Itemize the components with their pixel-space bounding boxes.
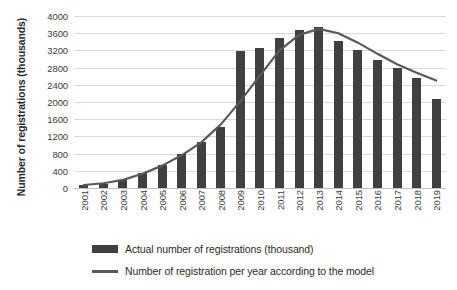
plot-area xyxy=(74,16,446,188)
y-tick-label-1200: 1200 xyxy=(47,131,68,142)
x-tick-label-2007: 2007 xyxy=(196,190,207,211)
legend-item-model: Number of registration per year accordin… xyxy=(0,260,457,282)
x-tick-label-2001: 2001 xyxy=(79,190,90,211)
x-tick-label-2004: 2004 xyxy=(138,190,149,211)
x-tick-label-2012: 2012 xyxy=(294,190,305,211)
x-tick-label-2013: 2013 xyxy=(314,190,325,211)
x-tick-label-2005: 2005 xyxy=(157,190,168,211)
x-tick-label-2019: 2019 xyxy=(431,190,442,211)
chart-container: Number of registrations (thousands) 0400… xyxy=(0,0,457,290)
x-tick-label-2003: 2003 xyxy=(118,190,129,211)
x-tick-label-2011: 2011 xyxy=(275,190,286,210)
x-tick-label-2015: 2015 xyxy=(353,190,364,211)
y-tick-label-1600: 1600 xyxy=(47,114,68,125)
gridline-0 xyxy=(74,188,446,189)
x-tick-label-2016: 2016 xyxy=(372,190,383,211)
x-tick-label-2002: 2002 xyxy=(98,190,109,211)
x-tick-label-2018: 2018 xyxy=(412,190,423,211)
y-tick-label-400: 400 xyxy=(52,165,68,176)
y-tick-label-2800: 2800 xyxy=(47,62,68,73)
x-axis-tick-labels: 2001200220032004200520062007200820092010… xyxy=(74,190,446,232)
x-tick-label-2009: 2009 xyxy=(235,190,246,211)
y-tick-label-4000: 4000 xyxy=(47,11,68,22)
y-tick-label-3600: 3600 xyxy=(47,28,68,39)
y-tick-label-3200: 3200 xyxy=(47,45,68,56)
legend-item-actual: Actual number of registrations (thousand… xyxy=(0,238,457,260)
y-tick-label-800: 800 xyxy=(52,148,68,159)
legend-label-actual: Actual number of registrations (thousand… xyxy=(125,243,314,255)
x-tick-label-2010: 2010 xyxy=(255,190,266,211)
legend-label-model: Number of registration per year accordin… xyxy=(125,265,374,277)
y-tick-label-2400: 2400 xyxy=(47,79,68,90)
legend-bar-swatch-icon xyxy=(92,245,118,253)
legend-line-swatch-icon xyxy=(92,270,118,273)
model-line-series xyxy=(74,16,446,188)
x-tick-label-2017: 2017 xyxy=(392,190,403,211)
x-tick-label-2008: 2008 xyxy=(216,190,227,211)
chart-legend: Actual number of registrations (thousand… xyxy=(0,238,457,282)
y-tick-label-2000: 2000 xyxy=(47,97,68,108)
x-tick-label-2014: 2014 xyxy=(333,190,344,211)
y-tick-label-0: 0 xyxy=(63,183,68,194)
x-tick-label-2006: 2006 xyxy=(177,190,188,211)
y-axis-tick-labels: 040080012001600200024002800320036004000 xyxy=(0,0,74,188)
